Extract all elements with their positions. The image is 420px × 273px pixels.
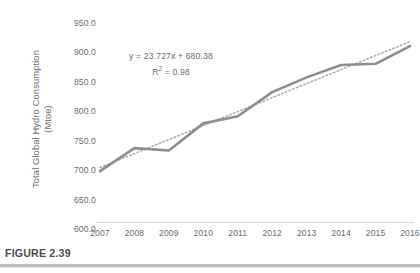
r-squared-text: R2 = 0.98 bbox=[108, 63, 234, 78]
figure-container: Total Global Hydro Consumption (Mtoe) 60… bbox=[0, 0, 420, 273]
trendline-equation-annotation: y = 23.727x + 680.38 R2 = 0.98 bbox=[108, 51, 234, 78]
r-squared-value: = 0.98 bbox=[162, 66, 190, 76]
trendline-equation-text: y = 23.727x + 680.38 bbox=[129, 51, 213, 61]
figure-caption: FIGURE 2.39 bbox=[5, 247, 71, 259]
plot-area bbox=[0, 0, 420, 244]
line-chart: Total Global Hydro Consumption (Mtoe) 60… bbox=[0, 0, 420, 244]
figure-caption-bar: FIGURE 2.39 bbox=[0, 244, 420, 273]
caption-divider-secondary bbox=[0, 267, 420, 268]
